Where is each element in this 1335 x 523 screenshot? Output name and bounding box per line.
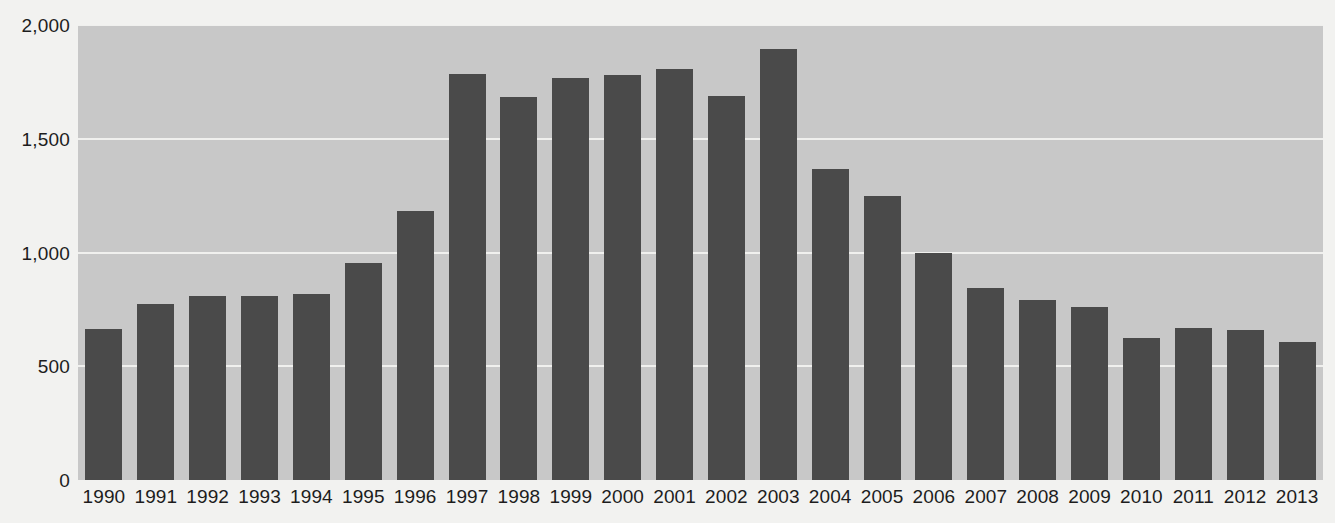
- bar-2008[interactable]: [1019, 300, 1056, 480]
- x-tick-label-1995: 1995: [337, 487, 389, 508]
- x-tick-label-2005: 2005: [856, 487, 908, 508]
- x-tick-label-2011: 2011: [1167, 487, 1219, 508]
- y-tick-label: 1,000: [0, 243, 70, 262]
- bar-1996[interactable]: [397, 211, 434, 480]
- bar-chart: 05001,0001,5002,000 19901991199219931994…: [0, 0, 1335, 523]
- x-axis: 1990199119921993199419951996199719981999…: [78, 487, 1323, 517]
- bar-2001[interactable]: [656, 69, 693, 480]
- y-tick-label: 1,500: [0, 129, 70, 148]
- bar-2006[interactable]: [915, 253, 952, 480]
- x-tick-label-2012: 2012: [1219, 487, 1271, 508]
- x-tick-label-1996: 1996: [389, 487, 441, 508]
- x-tick-label-1991: 1991: [130, 487, 182, 508]
- x-tick-label-2002: 2002: [701, 487, 753, 508]
- y-tick-label: 0: [0, 471, 70, 490]
- bar-2010[interactable]: [1123, 338, 1160, 480]
- y-tick-label: 2,000: [0, 16, 70, 35]
- bar-1995[interactable]: [345, 263, 382, 480]
- x-tick-label-2013: 2013: [1271, 487, 1323, 508]
- bar-1991[interactable]: [137, 304, 174, 480]
- bar-1999[interactable]: [552, 78, 589, 480]
- x-tick-label-1998: 1998: [493, 487, 545, 508]
- bar-2005[interactable]: [864, 196, 901, 480]
- x-tick-label-2004: 2004: [804, 487, 856, 508]
- bar-1997[interactable]: [449, 74, 486, 480]
- bar-2013[interactable]: [1279, 342, 1316, 480]
- bar-1998[interactable]: [500, 97, 537, 480]
- x-tick-label-1999: 1999: [545, 487, 597, 508]
- x-tick-label-1997: 1997: [441, 487, 493, 508]
- x-tick-label-1990: 1990: [78, 487, 130, 508]
- bar-2003[interactable]: [760, 49, 797, 480]
- y-axis: 05001,0001,5002,000: [0, 0, 70, 523]
- x-tick-label-2009: 2009: [1064, 487, 1116, 508]
- bar-2002[interactable]: [708, 96, 745, 480]
- x-tick-label-2000: 2000: [597, 487, 649, 508]
- bar-2000[interactable]: [604, 75, 641, 480]
- bar-2011[interactable]: [1175, 328, 1212, 480]
- bar-1992[interactable]: [189, 296, 226, 480]
- x-tick-label-2007: 2007: [960, 487, 1012, 508]
- bar-2012[interactable]: [1227, 330, 1264, 480]
- bars-group: [78, 25, 1323, 480]
- y-tick-label: 500: [0, 357, 70, 376]
- bar-2007[interactable]: [967, 288, 1004, 480]
- x-tick-label-1993: 1993: [234, 487, 286, 508]
- x-tick-label-2010: 2010: [1116, 487, 1168, 508]
- x-tick-label-2006: 2006: [908, 487, 960, 508]
- bar-1993[interactable]: [241, 296, 278, 480]
- bar-2004[interactable]: [812, 169, 849, 480]
- x-tick-label-1994: 1994: [286, 487, 338, 508]
- bar-1990[interactable]: [85, 329, 122, 480]
- x-tick-label-2003: 2003: [752, 487, 804, 508]
- x-tick-label-2001: 2001: [649, 487, 701, 508]
- plot-area: [78, 25, 1323, 480]
- bar-2009[interactable]: [1071, 307, 1108, 480]
- x-tick-label-1992: 1992: [182, 487, 234, 508]
- x-tick-label-2008: 2008: [1012, 487, 1064, 508]
- bar-1994[interactable]: [293, 294, 330, 480]
